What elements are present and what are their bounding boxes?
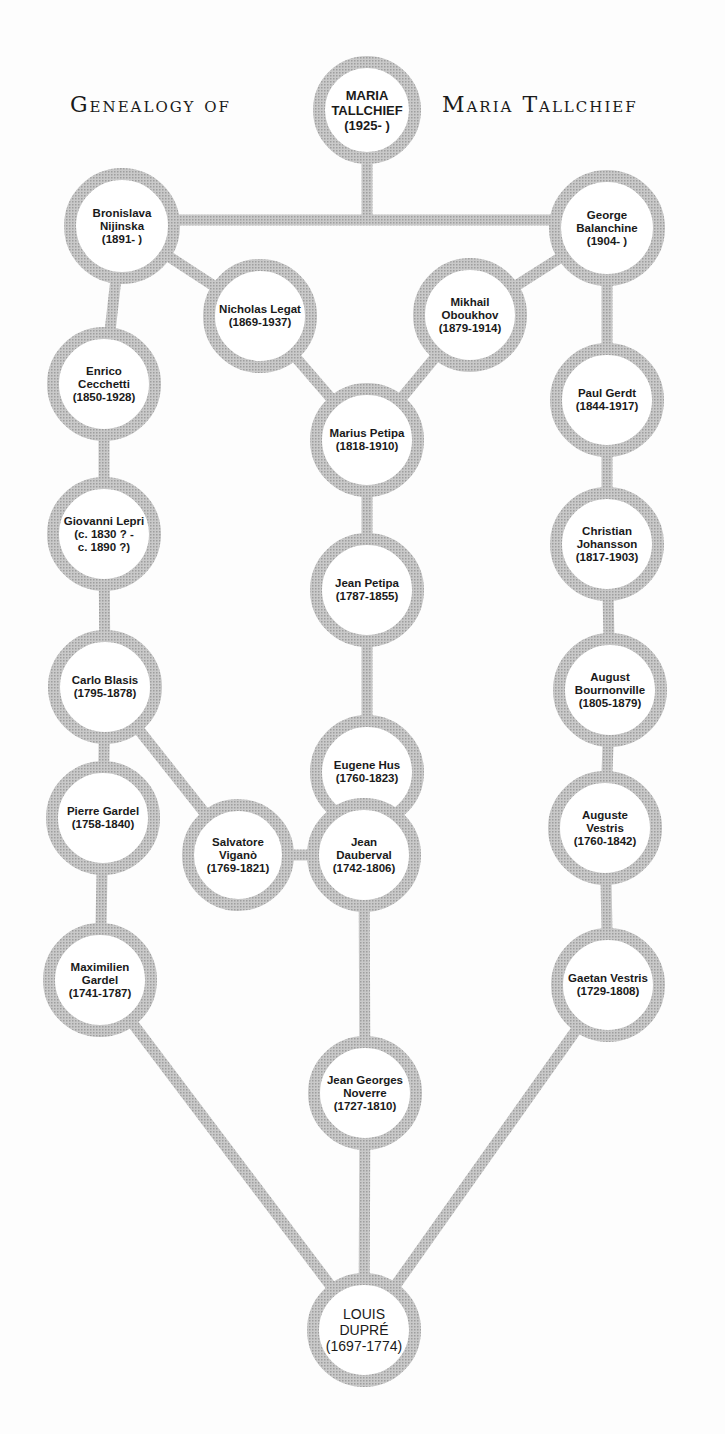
node-name: Salvatore Viganò [184, 836, 292, 862]
node-eugene: Eugene Hus(1760-1823) [313, 759, 421, 785]
node-auguste_v: Auguste Vestris(1760-1842) [551, 809, 659, 848]
node-dates: (1817-1903) [553, 551, 661, 564]
node-dates: (1742-1806) [310, 862, 418, 875]
node-dates: (1850-1928) [50, 391, 158, 404]
node-maximilien: Maximilien Gardel(1741-1787) [46, 961, 154, 1000]
node-dates: (1741-1787) [46, 987, 154, 1000]
node-name: Enrico Cecchetti [50, 365, 158, 391]
node-paul: Paul Gerdt(1844-1917) [553, 387, 661, 413]
node-maria: MARIA TALLCHIEF(1925- ) [313, 88, 421, 133]
node-name: Mikhail Oboukhov [416, 296, 524, 322]
node-gaetan: Gaetan Vestris(1729-1808) [554, 972, 662, 998]
node-name: Jean Dauberval [310, 836, 418, 862]
node-marius: Marius Petipa(1818-1910) [313, 427, 421, 453]
node-dauberval: Jean Dauberval(1742-1806) [310, 836, 418, 875]
node-name: Bronislava Nijinska [68, 207, 176, 233]
node-name: Marius Petipa [313, 427, 421, 440]
node-dates: (1818-1910) [313, 440, 421, 453]
connector-line [122, 164, 607, 220]
node-nicholas: Nicholas Legat(1869-1937) [206, 303, 314, 329]
node-name: George Balanchine [553, 209, 661, 235]
node-august_b: August Bournonville(1805-1879) [556, 671, 664, 710]
node-dates: (1904- ) [553, 235, 661, 248]
node-dates: (1760-1823) [313, 772, 421, 785]
node-name: Paul Gerdt [553, 387, 661, 400]
node-name: Jean Georges Noverre [311, 1074, 419, 1100]
node-dates: (1891- ) [68, 233, 176, 246]
node-enrico: Enrico Cecchetti(1850-1928) [50, 365, 158, 404]
node-name: Jean Petipa [313, 577, 421, 590]
connector-line [100, 980, 364, 1330]
node-name: LOUIS DUPRÉ [310, 1306, 418, 1338]
node-dates: (1727-1810) [311, 1100, 419, 1113]
node-mikhail: Mikhail Oboukhov(1879-1914) [416, 296, 524, 335]
title-right: Maria Tallchief [442, 92, 638, 117]
node-george: George Balanchine(1904- ) [553, 209, 661, 248]
node-name: Auguste Vestris [551, 809, 659, 835]
node-louis: LOUIS DUPRÉ(1697-1774) [310, 1306, 418, 1354]
node-dates: (1760-1842) [551, 835, 659, 848]
node-dates: (1697-1774) [310, 1338, 418, 1354]
node-giovanni: Giovanni Lepri(c. 1830 ? - c. 1890 ?) [50, 515, 158, 554]
node-dates: (1879-1914) [416, 322, 524, 335]
node-jean_petipa: Jean Petipa(1787-1855) [313, 577, 421, 603]
node-name: August Bournonville [556, 671, 664, 697]
node-name: Pierre Gardel [49, 805, 157, 818]
node-carlo: Carlo Blasis(1795-1878) [51, 674, 159, 700]
ancestor-nodes [49, 62, 661, 1381]
node-dates: (1795-1878) [51, 687, 159, 700]
node-salvatore: Salvatore Viganò(1769-1821) [184, 836, 292, 875]
node-dates: (1729-1808) [554, 985, 662, 998]
node-pierre: Pierre Gardel(1758-1840) [49, 805, 157, 831]
node-christian: Christian Johansson(1817-1903) [553, 525, 661, 564]
connector-line [364, 985, 608, 1330]
node-name: Gaetan Vestris [554, 972, 662, 985]
node-name: Christian Johansson [553, 525, 661, 551]
node-name: Giovanni Lepri [50, 515, 158, 528]
node-dates: (1769-1821) [184, 862, 292, 875]
node-name: Carlo Blasis [51, 674, 159, 687]
node-name: Maximilien Gardel [46, 961, 154, 987]
title-left: Genealogy of [70, 92, 231, 117]
node-name: MARIA TALLCHIEF [313, 88, 421, 118]
node-name: Eugene Hus [313, 759, 421, 772]
node-dates: (1805-1879) [556, 697, 664, 710]
node-dates: (1787-1855) [313, 590, 421, 603]
node-dates: (c. 1830 ? - c. 1890 ?) [50, 528, 158, 554]
node-dates: (1758-1840) [49, 818, 157, 831]
node-dates: (1844-1917) [553, 400, 661, 413]
node-bronislava: Bronislava Nijinska(1891- ) [68, 207, 176, 246]
node-dates: (1869-1937) [206, 316, 314, 329]
node-dates: (1925- ) [313, 118, 421, 133]
node-noverre: Jean Georges Noverre(1727-1810) [311, 1074, 419, 1113]
node-name: Nicholas Legat [206, 303, 314, 316]
